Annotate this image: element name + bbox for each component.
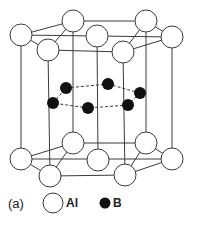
- al-atom-icon: [161, 148, 183, 170]
- al-atom-icon: [62, 10, 84, 32]
- legend-b-symbol-icon: [100, 198, 111, 209]
- crystal-structure-diagram: [0, 0, 197, 227]
- b-atom-icon: [82, 102, 94, 114]
- boron-bond-dashed: [88, 105, 128, 108]
- al-atom-icon: [10, 24, 32, 46]
- al-atom-icon: [86, 25, 108, 47]
- al-atom-icon: [62, 132, 84, 154]
- vertical-bond: [97, 36, 98, 160]
- b-atom-icon: [102, 78, 114, 90]
- al-atom-icon: [135, 132, 157, 154]
- al-atom-icon: [39, 165, 61, 187]
- al-atom-icon: [135, 10, 157, 32]
- vertical-bond: [123, 52, 125, 175]
- al-atom-icon: [161, 26, 183, 48]
- boron-bond-dashed: [66, 84, 108, 88]
- legend-label-b: B: [113, 196, 122, 210]
- figure-caption: (a): [8, 196, 24, 211]
- b-atom-icon: [122, 99, 134, 111]
- legend-label-al: Al: [66, 196, 78, 210]
- boron-atoms: [47, 78, 146, 114]
- b-atom-icon: [47, 97, 59, 109]
- b-atom-icon: [60, 82, 72, 94]
- b-atom-icon: [134, 87, 146, 99]
- vertical-bond: [48, 50, 50, 176]
- al-atom-icon: [114, 164, 136, 186]
- al-atom-icon: [112, 41, 134, 63]
- al-atom-icon: [37, 39, 59, 61]
- al-atom-icon: [87, 149, 109, 171]
- al-atom-icon: [10, 148, 32, 170]
- legend-al-symbol-icon: [43, 193, 63, 213]
